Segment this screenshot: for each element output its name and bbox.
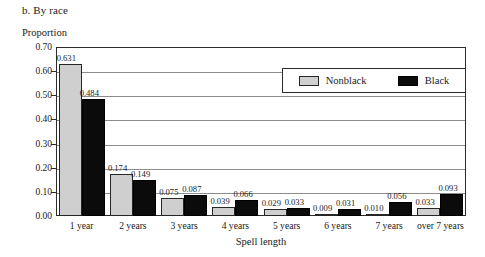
bar-black bbox=[440, 194, 463, 216]
bar-nonblack bbox=[417, 208, 440, 216]
bar-nonblack bbox=[315, 214, 338, 216]
bar-value-label: 0.033 bbox=[285, 198, 304, 207]
y-axis-tick-mark bbox=[51, 168, 56, 169]
legend-entry-nonblack: Nonblack bbox=[299, 75, 367, 86]
bar-black bbox=[338, 209, 361, 216]
bar-value-label: 0.031 bbox=[336, 199, 355, 208]
y-axis-tick-mark bbox=[51, 95, 56, 96]
bar-black bbox=[184, 195, 207, 216]
x-axis-tick-label: 3 years bbox=[159, 220, 210, 232]
bar-value-label: 0.149 bbox=[131, 170, 150, 179]
x-axis-tick-label: 5 years bbox=[261, 220, 312, 232]
legend-swatch-icon bbox=[299, 76, 319, 86]
x-axis-tick-labels: 1 year2 years3 years4 years5 years6 year… bbox=[56, 220, 466, 234]
bar-nonblack bbox=[110, 174, 133, 216]
bar-value-label: 0.075 bbox=[159, 188, 178, 197]
x-axis-tick-label: 4 years bbox=[210, 220, 261, 232]
bar-value-label: 0.093 bbox=[438, 184, 457, 193]
legend-label: Nonblack bbox=[326, 75, 367, 86]
bar-value-label: 0.066 bbox=[233, 190, 252, 199]
bar-value-label: 0.087 bbox=[182, 185, 201, 194]
y-axis-tick-mark bbox=[51, 119, 56, 120]
chart-legend: NonblackBlack bbox=[282, 68, 466, 93]
y-axis-tick-label: 0.50 bbox=[35, 90, 52, 101]
bar-value-label: 0.056 bbox=[387, 192, 406, 201]
y-axis-tick-label: 0.70 bbox=[35, 42, 52, 53]
bar-value-label: 0.631 bbox=[57, 54, 76, 63]
y-axis-tick-label: 0.60 bbox=[35, 66, 52, 77]
bar-black bbox=[133, 180, 156, 216]
bar-value-label: 0.174 bbox=[108, 164, 127, 173]
bar-nonblack bbox=[161, 198, 184, 216]
bar-value-label: 0.009 bbox=[313, 204, 332, 213]
x-axis-tick-label: 1 year bbox=[56, 220, 107, 232]
x-axis-tick-label: 7 years bbox=[364, 220, 415, 232]
bar-black bbox=[389, 202, 412, 216]
bar-black bbox=[287, 208, 310, 216]
legend-label: Black bbox=[425, 75, 450, 86]
bar-nonblack bbox=[264, 209, 287, 216]
bar-black bbox=[235, 200, 258, 216]
y-axis-tick-mark bbox=[51, 192, 56, 193]
bar-value-label: 0.484 bbox=[80, 89, 99, 98]
x-axis-title: Spell length bbox=[56, 236, 466, 247]
bar-group: 0.0750.087 bbox=[159, 47, 210, 216]
x-axis-tick-label: 6 years bbox=[312, 220, 363, 232]
bar-value-label: 0.029 bbox=[262, 199, 281, 208]
y-axis-tick-label: 0.20 bbox=[35, 163, 52, 174]
y-axis-title: Proportion bbox=[22, 27, 67, 38]
bar-value-label: 0.033 bbox=[415, 198, 434, 207]
y-axis-tick-mark bbox=[51, 71, 56, 72]
x-axis-tick-label: over 7 years bbox=[415, 220, 466, 232]
legend-entry-black: Black bbox=[398, 75, 450, 86]
bar-group: 0.6310.484 bbox=[56, 47, 107, 216]
bar-black bbox=[82, 99, 105, 216]
bar-nonblack bbox=[59, 64, 82, 216]
bar-nonblack bbox=[366, 214, 389, 216]
bar-group: 0.0390.066 bbox=[210, 47, 261, 216]
bar-value-label: 0.039 bbox=[210, 197, 229, 206]
x-axis-tick-label: 2 years bbox=[107, 220, 158, 232]
y-axis-tick-label: 0.10 bbox=[35, 187, 52, 198]
y-axis-tick-label: 0.40 bbox=[35, 114, 52, 125]
bar-nonblack bbox=[212, 207, 235, 216]
y-axis-tick-label: 0.00 bbox=[35, 211, 52, 222]
bar-value-label: 0.010 bbox=[364, 204, 383, 213]
y-axis-tick-labels: 0.000.100.200.300.400.500.600.70 bbox=[18, 41, 52, 222]
y-axis-tick-mark bbox=[51, 144, 56, 145]
figure-title: b. By race bbox=[22, 4, 68, 16]
y-axis-tick-label: 0.30 bbox=[35, 139, 52, 150]
legend-swatch-icon bbox=[398, 76, 418, 86]
bar-group: 0.1740.149 bbox=[107, 47, 158, 216]
